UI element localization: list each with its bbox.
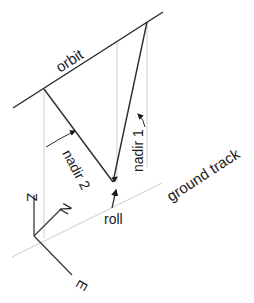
orbit-label: orbit: [52, 45, 86, 76]
axis-e-line: [34, 236, 72, 275]
roll-label: roll: [104, 211, 123, 227]
orbit-line: [13, 12, 163, 108]
nadir-1-angle-arrow: [138, 114, 145, 127]
axis-z-label: Z: [24, 193, 40, 202]
ground-track-label: ground track: [163, 145, 243, 205]
nadir-2-angle-arc: [46, 131, 75, 147]
nadir-1-label: nadir 1: [130, 129, 146, 172]
axis-e-label: E: [73, 278, 92, 294]
axis-n-label: N: [56, 201, 75, 218]
geometry-diagram: orbit ground track nadir 1 nadir 2 roll …: [0, 0, 254, 303]
nadir-2-label: nadir 2: [59, 147, 93, 192]
roll-arrow: [112, 190, 116, 208]
axis-n-line: [34, 209, 61, 236]
